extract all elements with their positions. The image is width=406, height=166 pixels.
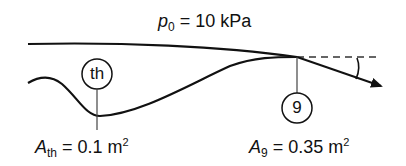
throat-area-value: = 0.1 m — [62, 137, 123, 157]
upper-boundary-line — [28, 44, 297, 57]
exit-angle-arc — [356, 58, 359, 79]
throat-area-subscript: th — [47, 146, 57, 160]
throat-area-label: Ath = 0.1 m2 — [35, 137, 129, 159]
throat-area-symbol: A — [35, 137, 47, 157]
pressure-subscript: 0 — [168, 20, 175, 34]
ambient-pressure-label: p0 = 10 kPa — [158, 12, 251, 33]
pressure-symbol: p — [158, 11, 168, 31]
exit-area-exponent: 2 — [343, 136, 349, 148]
exit-area-subscript: 9 — [261, 146, 268, 160]
pressure-value: = 10 kPa — [180, 11, 252, 31]
exit-station-label: 9 — [282, 99, 312, 116]
exit-area-value: = 0.35 m — [273, 137, 344, 157]
throat-station-label: th — [82, 65, 112, 82]
exit-flow-arrow — [297, 57, 381, 86]
exit-area-label: A9 = 0.35 m2 — [249, 137, 349, 159]
exit-area-symbol: A — [249, 137, 261, 157]
nozzle-contour-line — [28, 57, 297, 116]
throat-area-exponent: 2 — [123, 136, 129, 148]
